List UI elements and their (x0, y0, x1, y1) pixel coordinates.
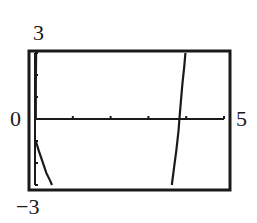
axes (35, 53, 224, 185)
window-frame (29, 51, 230, 190)
branch-near-origin-lower-curve (36, 141, 52, 185)
plot-area (0, 0, 257, 223)
